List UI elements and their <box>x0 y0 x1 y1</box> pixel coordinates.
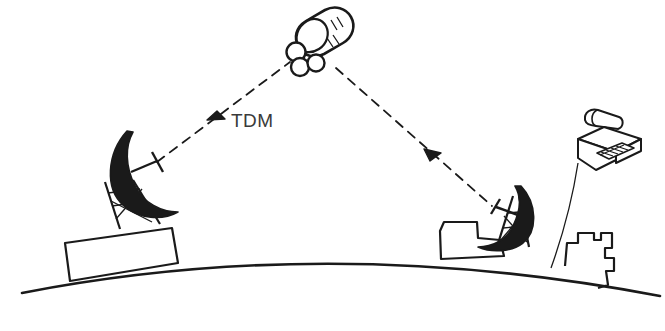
downlink-dashed-line <box>336 68 492 206</box>
right-earth-station <box>440 186 534 259</box>
diagram-canvas <box>0 0 665 331</box>
satellite <box>287 8 354 76</box>
left-earth-station <box>65 131 178 281</box>
satellite-tdm-diagram: TDM <box>0 0 665 331</box>
tdm-label: TDM <box>231 110 273 132</box>
city-skyline <box>565 233 614 288</box>
terminal-ground-cable <box>551 163 578 268</box>
data-terminal <box>578 109 641 170</box>
